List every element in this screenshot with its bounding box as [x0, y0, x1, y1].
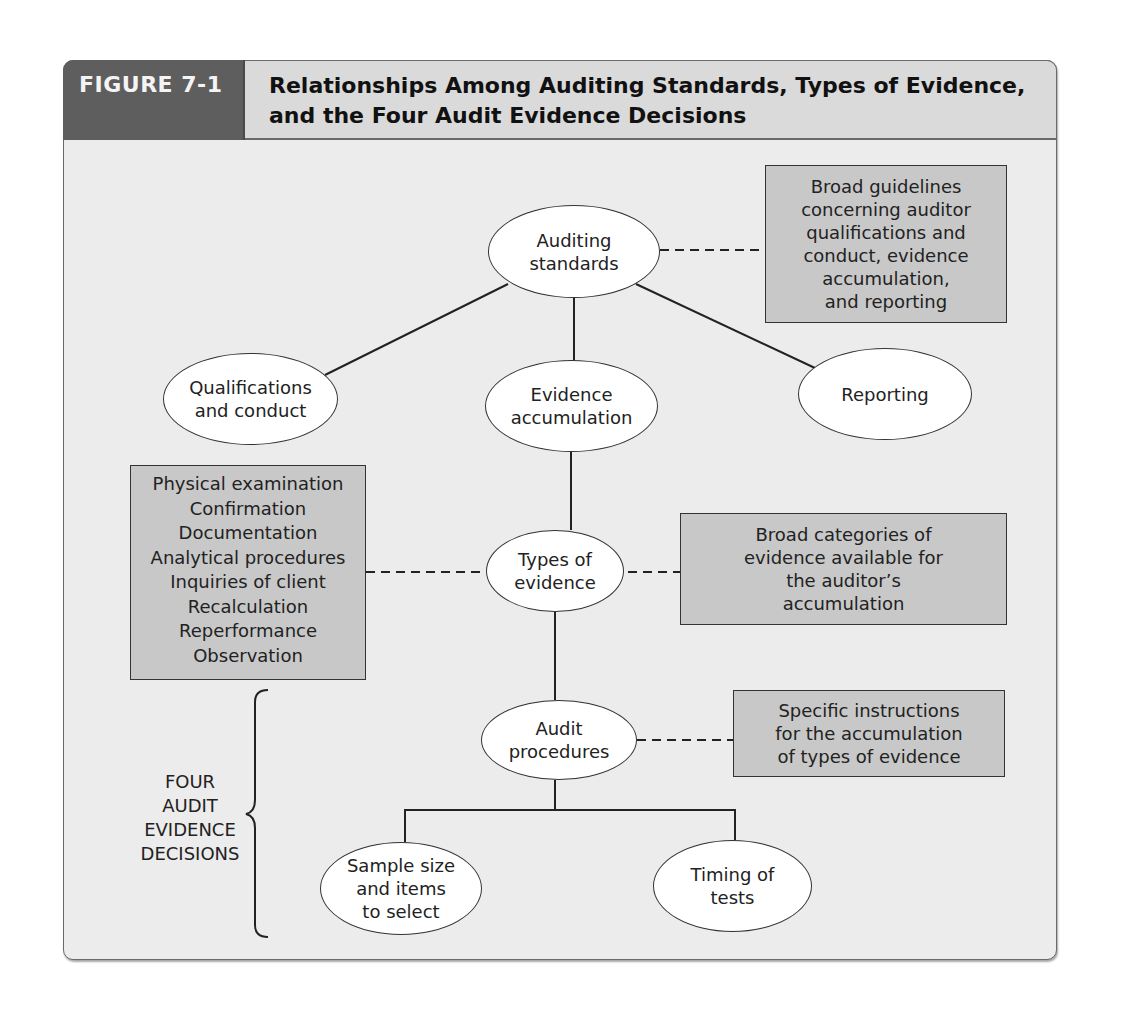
evidence-type-item: Physical examination [153, 472, 344, 497]
evidence-type-item: Reperformance [179, 619, 317, 644]
node-types-of-evidence: Types of evidence [486, 530, 624, 612]
node-reporting: Reporting [798, 348, 972, 440]
brace-icon [246, 690, 268, 937]
line-standards-qualifications [325, 284, 508, 375]
node-auditing-standards: Auditing standards [488, 205, 660, 298]
evidence-types-list: Physical examination Confirmation Docume… [130, 465, 366, 680]
note-types: Broad categories of evidence available f… [680, 513, 1007, 625]
node-sample-size: Sample size and items to select [320, 842, 482, 935]
node-timing: Timing of tests [653, 840, 812, 932]
evidence-type-item: Recalculation [188, 595, 309, 620]
four-decisions-label: FOUR AUDIT EVIDENCE DECISIONS [135, 770, 245, 866]
note-procedures: Specific instructions for the accumulati… [733, 690, 1005, 777]
node-qualifications: Qualifications and conduct [163, 353, 338, 445]
node-audit-procedures: Audit procedures [481, 700, 637, 780]
evidence-type-item: Observation [193, 644, 303, 669]
line-branch-sample-timing [405, 810, 735, 842]
evidence-type-item: Confirmation [190, 497, 306, 522]
node-evidence-accumulation: Evidence accumulation [485, 360, 658, 452]
evidence-type-item: Analytical procedures [151, 546, 346, 571]
note-standards: Broad guidelines concerning auditor qual… [765, 165, 1007, 323]
evidence-type-item: Documentation [179, 521, 318, 546]
evidence-type-item: Inquiries of client [170, 570, 326, 595]
